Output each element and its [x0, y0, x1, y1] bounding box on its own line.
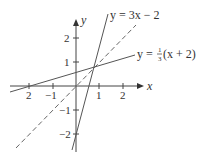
fraction-denominator: 3 [158, 55, 162, 63]
fraction-numerator: 1 [158, 46, 162, 54]
x-axis-arrow-icon [137, 83, 144, 89]
line-label-suffix: (x + 2) [163, 47, 196, 61]
line-label-prefix: y = [137, 47, 153, 61]
y-tick-label: 1 [64, 56, 70, 68]
line-label-third-x-plus-2: y = 1 3 (x + 2) [137, 46, 196, 63]
line-graph: 2 −1 1 2 2 1 −1 −2 x y y = 3x − 2 y = 1 … [0, 0, 205, 156]
y-tick-label: −2 [59, 128, 71, 140]
x-tick-label: 2 [120, 89, 126, 101]
line-y-3x-minus-2 [72, 14, 108, 150]
y-axis-label: y [80, 13, 87, 27]
plot-area: 2 −1 1 2 2 1 −1 −2 x y y = 3x − 2 y = 1 … [0, 0, 205, 156]
y-tick-label: 2 [64, 32, 70, 44]
x-axis-label: x [146, 79, 153, 93]
x-tick-label: −1 [45, 89, 57, 101]
line-label-3x-minus-2: y = 3x − 2 [110, 8, 160, 22]
y-tick-label: −1 [59, 104, 71, 116]
y-axis-arrow-icon [73, 19, 79, 26]
x-tick-label: 2 [26, 89, 32, 101]
x-tick-label: 1 [96, 89, 102, 101]
